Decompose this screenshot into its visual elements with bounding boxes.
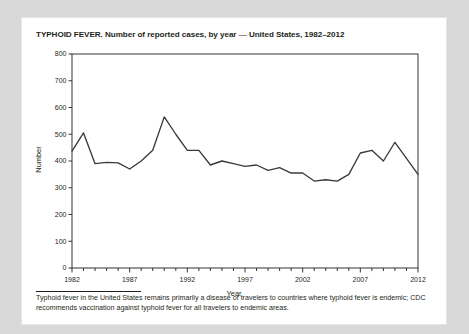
y-axis-tick-label: 700: [55, 77, 67, 84]
line-chart-svg: 0100200300400500600700800198219871992199…: [22, 18, 446, 324]
y-axis-tick-label: 0: [63, 264, 67, 271]
y-axis-tick-label: 600: [55, 104, 67, 111]
screenshot-root: TYPHOID FEVER. Number of reported cases,…: [0, 0, 469, 334]
x-axis-tick-label: 1987: [122, 276, 138, 283]
y-axis-tick-label: 400: [55, 157, 67, 164]
axis-frame: [72, 54, 418, 268]
y-axis-tick-label: 200: [55, 211, 67, 218]
x-axis-tick-label: 1992: [180, 276, 196, 283]
footnote-divider: [36, 291, 141, 292]
y-axis-tick-label: 500: [55, 131, 67, 138]
figure-card: TYPHOID FEVER. Number of reported cases,…: [22, 18, 446, 324]
y-axis-tick-label: 800: [55, 50, 67, 57]
y-axis-label: Number: [34, 130, 43, 190]
y-axis-tick-label: 100: [55, 238, 67, 245]
footnote-text: Typhoid fever in the United States remai…: [36, 294, 436, 313]
x-axis-tick-label: 2007: [353, 276, 369, 283]
x-axis-tick-label: 2002: [295, 276, 311, 283]
x-axis-tick-label: 2012: [410, 276, 426, 283]
x-axis-tick-label: 1997: [237, 276, 253, 283]
x-axis-tick-label: 1982: [64, 276, 80, 283]
chart-plot-area: 0100200300400500600700800198219871992199…: [22, 18, 446, 324]
y-axis-tick-label: 300: [55, 184, 67, 191]
data-series-line: [72, 117, 418, 181]
